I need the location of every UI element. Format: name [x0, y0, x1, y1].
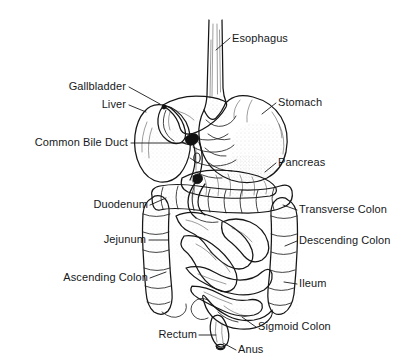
label-sigmoid-colon: Sigmoid Colon — [258, 320, 331, 332]
label-jejunum: Jejunum — [104, 233, 146, 245]
label-liver: Liver — [102, 98, 127, 110]
label-stomach: Stomach — [278, 96, 322, 108]
label-anus: Anus — [238, 343, 264, 355]
label-esophagus: Esophagus — [232, 32, 288, 44]
leader-gallbladder — [129, 87, 160, 104]
label-descending-colon: Descending Colon — [299, 234, 391, 246]
label-duodenum: Duodenum — [93, 198, 148, 210]
label-common-bile-duct: Common Bile Duct — [35, 136, 128, 148]
organ-descending-colon — [267, 198, 298, 316]
label-ascending-colon: Ascending Colon — [63, 271, 148, 283]
leader-liver — [129, 105, 146, 112]
organ-ileum — [186, 267, 272, 316]
label-pancreas: Pancreas — [278, 156, 326, 168]
anatomy-illustration: Esophagus Gallbladder Liver Stomach Comm… — [0, 0, 404, 364]
label-ileum: Ileum — [299, 277, 326, 289]
label-transverse-colon: Transverse Colon — [299, 203, 387, 215]
digestive-system-figure: Esophagus Gallbladder Liver Stomach Comm… — [0, 0, 404, 364]
label-gallbladder: Gallbladder — [69, 80, 127, 92]
label-rectum: Rectum — [159, 328, 198, 340]
